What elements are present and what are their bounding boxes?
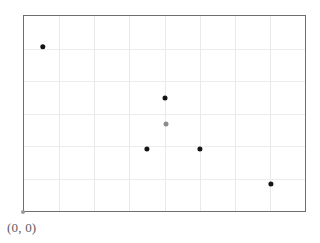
origin-marker-icon — [21, 210, 25, 214]
data-point — [145, 147, 150, 152]
origin-label: (0, 0) — [7, 220, 36, 236]
scatter-plot-figure: (0, 0) — [0, 0, 320, 243]
data-point — [40, 44, 45, 49]
plot-area — [23, 15, 306, 212]
data-point — [163, 122, 168, 127]
data-points-layer — [24, 16, 305, 211]
data-point — [197, 147, 202, 152]
data-point — [268, 181, 273, 186]
data-point — [162, 96, 167, 101]
